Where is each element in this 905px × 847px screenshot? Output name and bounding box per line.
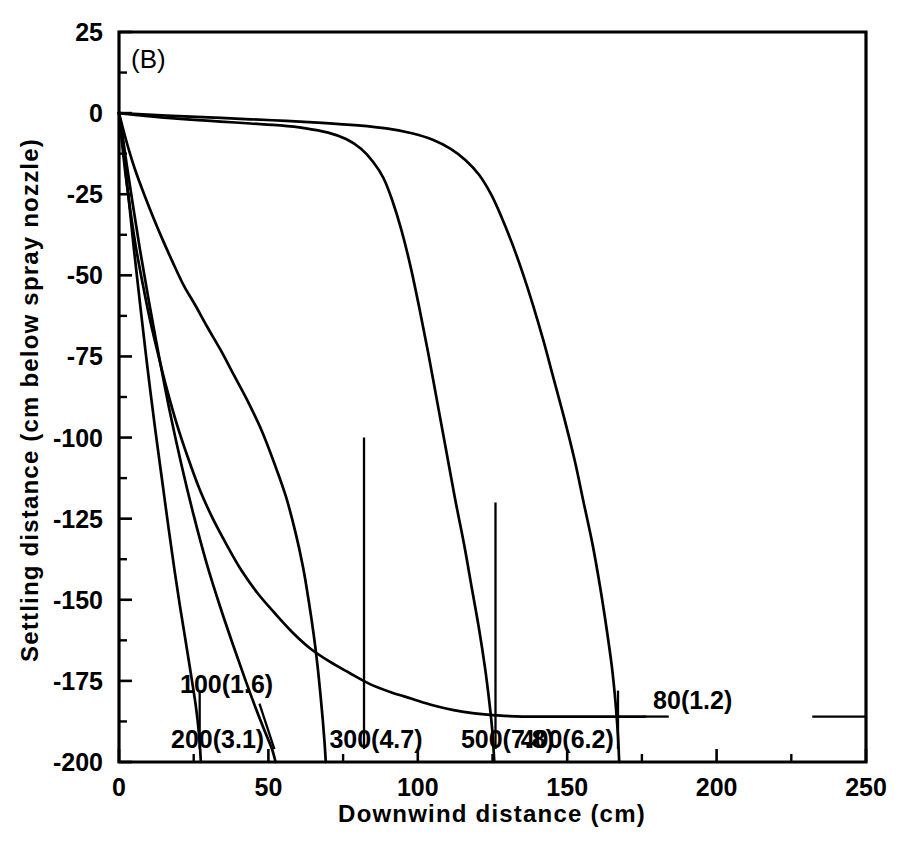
y-tick-label: -50 [67, 261, 103, 289]
y-tick-label: -125 [53, 505, 103, 533]
x-tick-label: 0 [112, 773, 126, 801]
curve-label: 100(1.6) [180, 670, 273, 698]
y-tick-label: -150 [53, 586, 103, 614]
y-tick-label: -175 [53, 667, 103, 695]
panel-label: (B) [131, 44, 166, 74]
x-axis-title: Downwind distance (cm) [338, 800, 646, 827]
x-tick-label: 150 [546, 773, 588, 801]
chart-background [0, 0, 905, 847]
y-tick-label: 0 [89, 99, 103, 127]
x-tick-label: 100 [397, 773, 439, 801]
curve-label: 400(6.2) [521, 725, 614, 753]
y-axis-title: Settling distance (cm below spray nozzle… [16, 138, 43, 662]
y-tick-label: -75 [67, 342, 103, 370]
y-tick-label: 25 [75, 18, 103, 46]
curve-label: 300(4.7) [329, 725, 422, 753]
curve-label: 80(1.2) [653, 686, 732, 714]
x-tick-label: 50 [254, 773, 282, 801]
y-tick-label: -200 [53, 748, 103, 776]
curve-label: 200(3.1) [171, 725, 264, 753]
y-tick-label: -25 [67, 180, 103, 208]
x-tick-label: 250 [845, 773, 887, 801]
figure-container: 050100150200250 250-25-50-75-100-125-150… [0, 0, 905, 847]
x-tick-label: 200 [696, 773, 738, 801]
settling-distance-chart: 050100150200250 250-25-50-75-100-125-150… [0, 0, 905, 847]
y-tick-label: -100 [53, 424, 103, 452]
